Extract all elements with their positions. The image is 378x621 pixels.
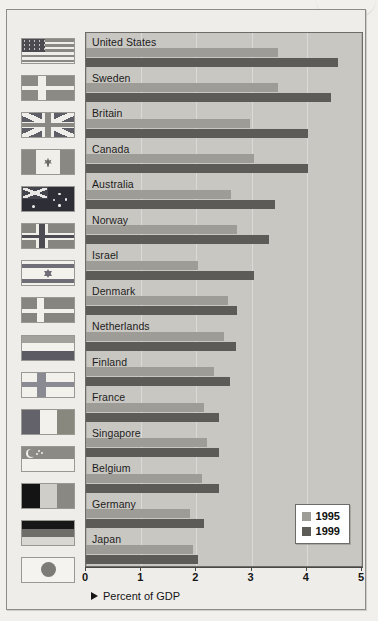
flag-singapore-icon (21, 446, 75, 472)
triangle-marker-icon (91, 592, 98, 600)
bar-1995 (86, 154, 254, 163)
bar-1995 (86, 509, 190, 518)
bar-1999 (86, 200, 275, 209)
flag-graphic (22, 261, 74, 285)
flag-france-icon (21, 409, 75, 435)
bar-1999 (86, 93, 331, 102)
category-label: Netherlands (92, 320, 150, 332)
flag-netherlands-icon (21, 335, 75, 361)
category-label: Norway (92, 214, 128, 226)
category-label: Germany (92, 498, 136, 510)
legend-swatch (302, 527, 311, 536)
flag-graphic (22, 336, 74, 360)
bar-1995 (86, 332, 224, 341)
flag-australia-icon (21, 186, 75, 212)
flag-graphic (22, 521, 74, 545)
bar-1999 (86, 306, 237, 315)
bar-1995 (86, 225, 237, 234)
flag-graphic (22, 484, 74, 508)
bar-1995 (86, 545, 193, 554)
axis-line (85, 567, 363, 568)
bar-1999 (86, 413, 219, 422)
table-row: Belgium (86, 459, 362, 495)
bar-1995 (86, 119, 250, 128)
flag-graphic (22, 410, 74, 434)
bar-1995 (86, 403, 204, 412)
bar-1999 (86, 271, 254, 280)
bar-1995 (86, 261, 198, 270)
bar-1999 (86, 342, 236, 351)
table-row: Canada (86, 140, 362, 176)
bar-1999 (86, 235, 269, 244)
axis-tick-label-1: 1 (137, 571, 143, 583)
legend-label: 1999 (316, 524, 340, 539)
flag-denmark-icon (21, 297, 75, 323)
flag-israel-icon (21, 260, 75, 286)
flag-graphic (22, 558, 74, 582)
category-label: Singapore (92, 427, 141, 439)
table-row: Finland (86, 353, 362, 389)
flag-germany-icon (21, 520, 75, 546)
category-label: Belgium (92, 462, 131, 474)
bar-1999 (86, 484, 219, 493)
category-label: United States (92, 36, 156, 48)
flag-graphic (22, 113, 74, 137)
bar-chart-plot-area: United StatesSwedenBritainCanadaAustrali… (85, 32, 363, 567)
axis-tick-label-2: 2 (192, 571, 198, 583)
legend-label: 1995 (316, 509, 340, 524)
table-row: Singapore (86, 424, 362, 460)
table-row: Britain (86, 104, 362, 140)
axis-tick-label-5: 5 (358, 571, 364, 583)
flag-finland-icon (21, 372, 75, 398)
bar-1999 (86, 448, 219, 457)
legend-item: 1995 (302, 509, 340, 524)
flag-united-states-icon (21, 38, 75, 64)
bar-rows: United StatesSwedenBritainCanadaAustrali… (86, 33, 362, 566)
flag-graphic (22, 39, 74, 63)
axis-tick-label-3: 3 (248, 571, 254, 583)
bar-1999 (86, 129, 308, 138)
bar-1999 (86, 377, 230, 386)
flag-graphic (22, 298, 74, 322)
category-label: Sweden (92, 72, 131, 84)
table-row: Norway (86, 211, 362, 247)
flag-britain-icon (21, 112, 75, 138)
x-axis: 012345 (85, 567, 363, 589)
bar-1995 (86, 438, 207, 447)
flag-graphic (22, 187, 74, 211)
flag-column (21, 38, 79, 583)
legend-item: 1999 (302, 524, 340, 539)
category-label: Canada (92, 143, 129, 155)
x-axis-title-label: Percent of GDP (103, 590, 180, 602)
axis-tick-label-0: 0 (82, 571, 88, 583)
axis-tick-label-4: 4 (303, 571, 309, 583)
table-row: Australia (86, 175, 362, 211)
category-label: Denmark (92, 285, 135, 297)
x-axis-title: Percent of GDP (91, 590, 180, 602)
flag-graphic (22, 150, 74, 174)
flag-sweden-icon (21, 75, 75, 101)
bar-1999 (86, 164, 308, 173)
table-row: Denmark (86, 282, 362, 318)
bar-1995 (86, 48, 278, 57)
bar-1995 (86, 474, 202, 483)
category-label: Britain (92, 107, 122, 119)
table-row: Israel (86, 246, 362, 282)
flag-japan-icon (21, 557, 75, 583)
bar-1995 (86, 83, 278, 92)
chart-legend: 19951999 (295, 504, 350, 544)
flag-belgium-icon (21, 483, 75, 509)
flag-graphic (22, 76, 74, 100)
bar-1999 (86, 58, 338, 67)
chart-panel: United StatesSwedenBritainCanadaAustrali… (6, 9, 366, 610)
category-label: Finland (92, 356, 127, 368)
table-row: Netherlands (86, 317, 362, 353)
bar-1995 (86, 296, 228, 305)
flag-graphic (22, 447, 74, 471)
category-label: Japan (92, 533, 121, 545)
table-row: France (86, 388, 362, 424)
table-row: United States (86, 33, 362, 69)
table-row: Sweden (86, 69, 362, 105)
category-label: France (92, 391, 125, 403)
flag-graphic (22, 373, 74, 397)
